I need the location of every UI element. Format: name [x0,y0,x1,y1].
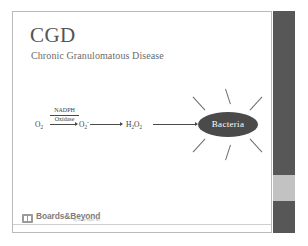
arrow-superoxide-to-peroxide [90,124,122,125]
brand-tagline: by Jason Ryan, MD [36,220,100,223]
footer-divider [13,224,271,225]
bacteria-oval: Bacteria [198,112,258,137]
brand-logo: Boards&Beyond by Jason Ryan, MD [22,212,100,224]
slide-canvas: CGD Chronic Granulomatous Disease O2 NAD… [12,11,272,233]
species-oxygen: O2 [35,120,43,130]
page-title: CGD [30,24,245,47]
vertical-scrollbar[interactable] [273,11,295,233]
burst-ray-icon [193,138,206,152]
burst-ray-icon [225,145,231,160]
slide-viewer: CGD Chronic Granulomatous Disease O2 NAD… [0,0,308,246]
burst-ray-icon [250,138,263,152]
burst-ray-icon [193,96,206,110]
burst-ray-icon [250,96,263,110]
burst-ray-icon [225,89,231,104]
bacteria-label: Bacteria [212,120,244,129]
boards-beyond-mark-icon [22,214,33,223]
scrollbar-thumb[interactable] [273,175,295,201]
species-superoxide: O2- [79,120,89,130]
brand-text: Boards&Beyond by Jason Ryan, MD [36,212,100,224]
enzyme-label-top: NADPH [50,107,79,115]
species-hydrogen-peroxide: H2O2 [126,120,142,130]
bacteria-group: Bacteria [189,90,267,160]
slide-footer: Boards&Beyond by Jason Ryan, MD [13,206,271,232]
reaction-diagram: O2 NADPH Oxidase O2- H2O2 [13,90,271,170]
title-block: CGD Chronic Granulomatous Disease [30,24,245,62]
arrow-oxygen-to-superoxide [50,124,77,125]
page-subtitle: Chronic Granulomatous Disease [31,49,245,62]
